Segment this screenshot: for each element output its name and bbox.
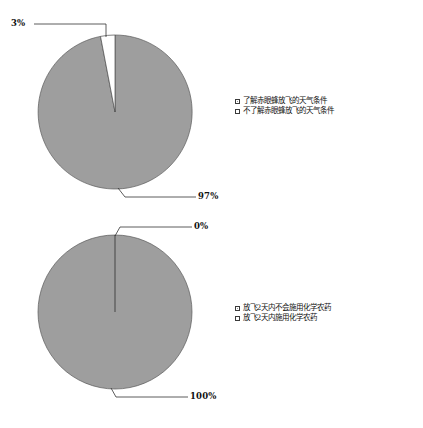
legend-item[interactable]: 不了解赤眼蜂放飞的天气条件 — [235, 106, 334, 116]
leader-line-small — [115, 227, 192, 236]
slice-label-small: 0% — [194, 221, 208, 231]
legend-swatch-hollow-icon — [235, 316, 240, 321]
legend-item[interactable]: 放飞2天内不会施用化学农药 — [235, 303, 331, 313]
pie-chart-1-graphic — [0, 0, 423, 214]
legend-swatch-hollow-icon — [235, 109, 240, 114]
legend-item-label: 放飞2天内施用化学农药 — [243, 313, 318, 323]
leader-line-small — [34, 24, 106, 37]
legend-swatch-filled-icon — [235, 306, 240, 311]
leader-line-large — [111, 388, 188, 397]
slice-label-small: 3% — [11, 18, 25, 28]
legend-item[interactable]: 放飞2天内施用化学农药 — [235, 313, 331, 323]
pie-chart-2-graphic — [0, 200, 423, 414]
legend-swatch-filled-icon — [235, 99, 240, 104]
legend-chart-2: 放飞2天内不会施用化学农药 放飞2天内施用化学农药 — [235, 303, 331, 323]
legend-item[interactable]: 了解赤眼蜂放飞的天气条件 — [235, 96, 334, 106]
leader-line-large — [118, 188, 196, 197]
slice-label-large: 100% — [190, 391, 217, 401]
legend-item-label: 了解赤眼蜂放飞的天气条件 — [243, 96, 327, 106]
legend-item-label: 不了解赤眼蜂放飞的天气条件 — [243, 106, 334, 116]
pie-chart-weather-condition: 3% 97% 了解赤眼蜂放飞的天气条件 不了解赤眼蜂放飞的天气条件 — [0, 0, 423, 214]
legend-chart-1: 了解赤眼蜂放飞的天气条件 不了解赤眼蜂放飞的天气条件 — [235, 96, 334, 116]
pie-chart-pesticide-use: 0% 100% 放飞2天内不会施用化学农药 放飞2天内施用化学农药 — [0, 200, 423, 414]
legend-item-label: 放飞2天内不会施用化学农药 — [243, 303, 332, 313]
